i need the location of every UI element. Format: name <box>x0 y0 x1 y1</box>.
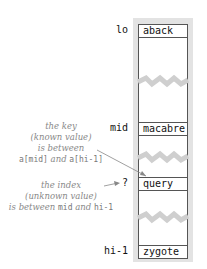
cell-query: query <box>138 177 188 191</box>
code-a-hi-1: a[hi-1] <box>69 155 103 164</box>
note-key-line4: a[mid] and a[hi-1] <box>6 154 116 165</box>
code-a-mid: a[mid] <box>19 155 48 164</box>
arrow-head-key <box>140 171 146 176</box>
note-key-line1: the key <box>6 121 116 132</box>
note-key-line2: (known value) <box>6 132 116 143</box>
note-index-line2: (unknown value) <box>6 191 116 202</box>
zigzag-break-1 <box>138 78 188 84</box>
note-index-line1: the index <box>6 180 116 191</box>
note-key: the key (known value) is between a[mid] … <box>6 121 116 165</box>
prefix-text: is between <box>9 202 55 212</box>
cell-zygote: zygote <box>138 245 188 259</box>
note-key-line3: is between <box>6 143 116 154</box>
cell-aback: aback <box>138 24 188 38</box>
cell-macabre: macabre <box>138 122 188 136</box>
zigzag-break-3 <box>138 214 188 220</box>
code-hi-1: hi-1 <box>94 203 113 212</box>
code-mid: mid <box>58 203 72 212</box>
zigzag-break-2 <box>138 154 188 160</box>
note-index-line3: is between mid and hi-1 <box>6 202 116 213</box>
index-label-lo: lo <box>88 24 128 35</box>
index-label-hi-1: hi-1 <box>88 245 128 256</box>
and-text: and <box>51 154 67 164</box>
and-text: and <box>75 202 91 212</box>
note-index: the index (unknown value) is between mid… <box>6 180 116 213</box>
